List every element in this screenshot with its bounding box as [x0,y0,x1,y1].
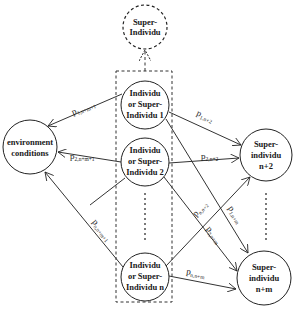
node-label: or Super- [128,271,162,281]
edge-label-1-env: p1,n+m+1 [70,98,97,118]
node-label: individu [249,273,280,283]
node-label: Individu 2 [126,167,164,177]
edge-label-1-n2: p1,n+2 [195,108,215,125]
edge-label-2-n2: p2,n+2 [201,151,218,162]
node-label: n+2 [259,161,273,171]
individu-flow-diagram: Super- Individu Individu or Super- Indiv… [0,0,298,311]
node-label: environment [7,137,53,147]
node-label: Super- [254,139,278,149]
node-label: Individu [129,88,160,98]
edge-2-crossline [90,178,125,205]
node-individu-2: Individu or Super- Individu 2 [121,138,169,186]
node-label: Individu [129,27,160,37]
edge-label-n-n2: pn,n+2 [190,199,210,219]
node-label: Individu 1 [126,110,164,120]
node-label: Individu n [126,282,164,292]
node-label: Individu [129,145,160,155]
node-label: n+m [256,284,273,294]
edge-label-1-nm: p1,n+m [225,204,245,226]
node-super-individu-nm: Super- individu n+m [237,251,291,305]
node-super-individu-top: Super- Individu [123,5,167,49]
node-label: Super- [133,17,157,27]
node-environment-conditions: environment conditions [3,120,57,174]
node-label: or Super- [128,156,162,166]
node-individu-n: Individu or Super- Individu n [121,253,169,301]
edge-label-n-nm: pn,n+m [185,266,206,280]
node-individu-1: Individu or Super- Individu 1 [121,81,169,129]
node-label: or Super- [128,99,162,109]
node-super-individu-n2: Super- individu n+2 [240,129,292,181]
node-label: Individu [129,260,160,270]
node-label: Super- [252,262,276,272]
node-label: conditions [11,148,49,158]
edge-n-env [45,172,123,267]
node-label: individu [251,150,282,160]
edge-label-2-env: p2,n+m+1 [70,151,95,162]
edge-label-2-nm: p2,n+m [204,224,225,246]
